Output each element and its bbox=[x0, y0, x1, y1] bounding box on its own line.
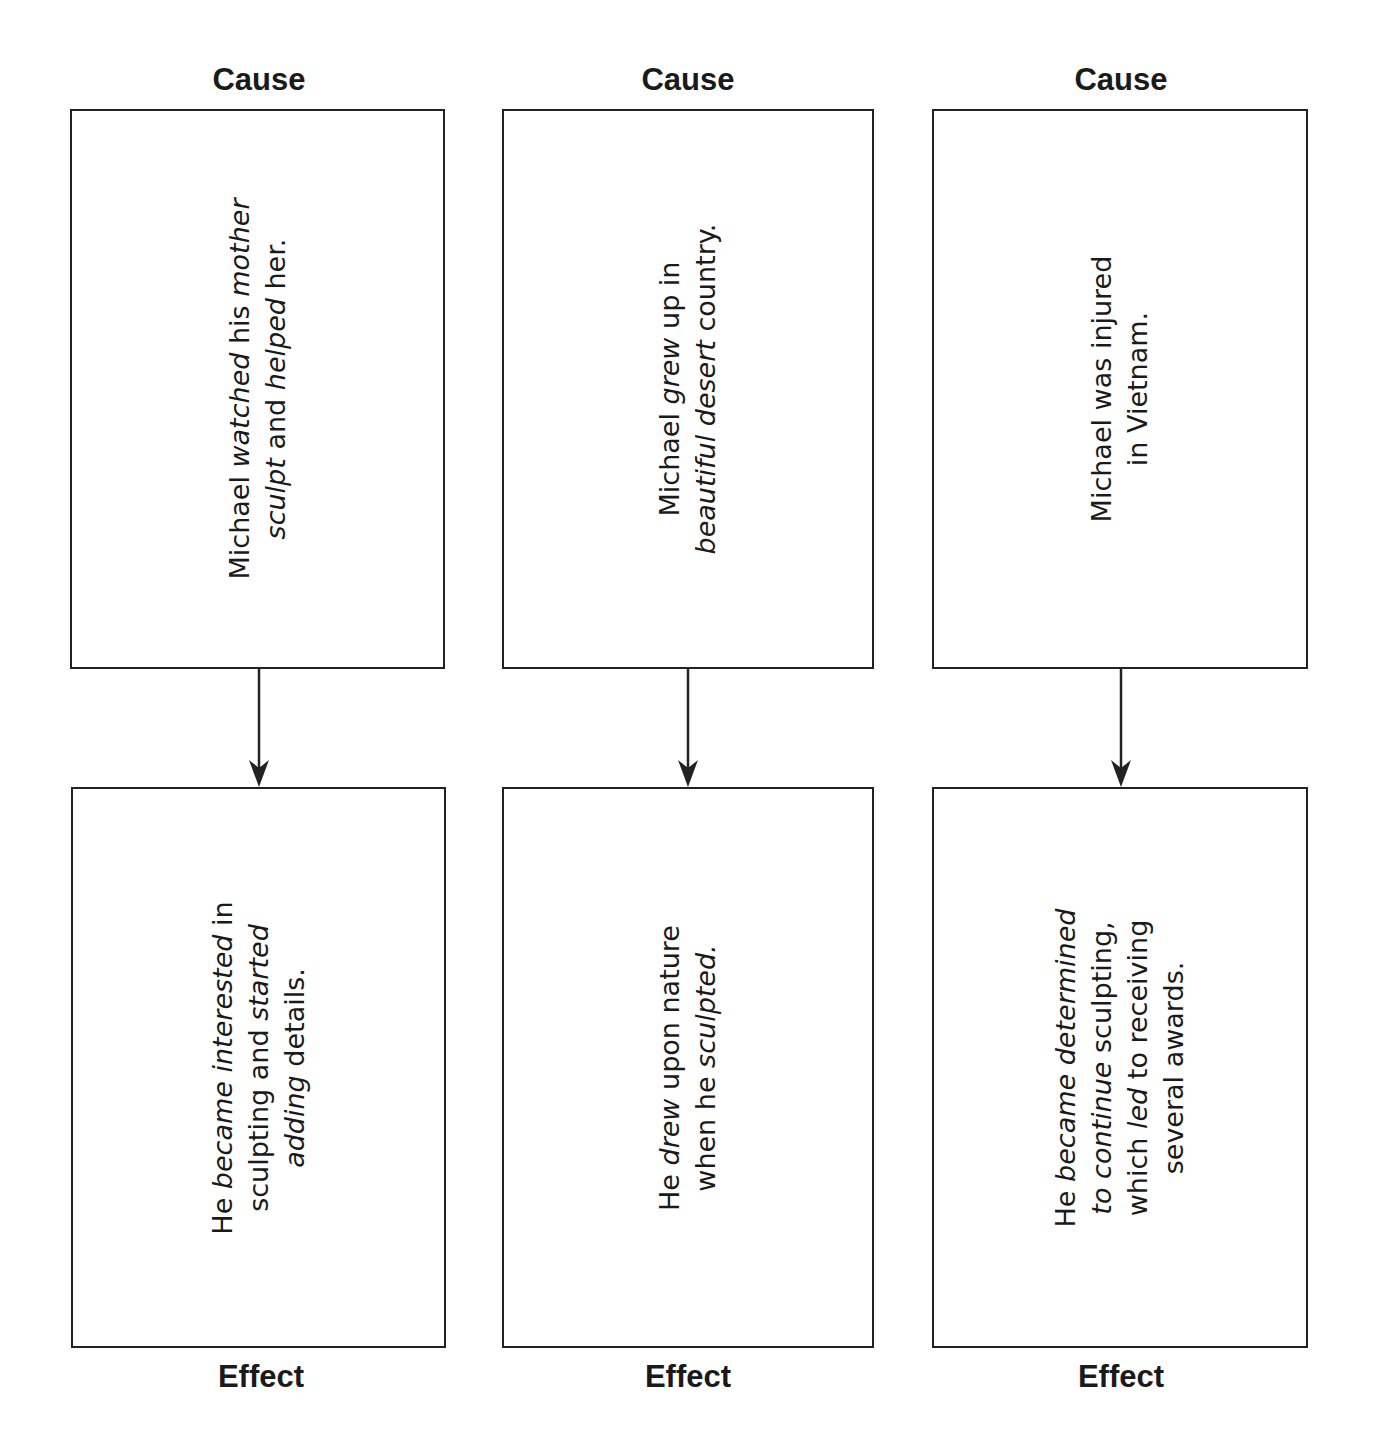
effect-label-3: Effect bbox=[934, 1359, 1308, 1395]
cause-text-3: Michael was injuredin Vietnam. bbox=[1084, 129, 1156, 649]
effect-label-2: Effect bbox=[501, 1359, 875, 1395]
text-line: in Vietnam. bbox=[1120, 129, 1156, 649]
text-line: sculpting and started bbox=[241, 808, 277, 1328]
text-line: Michael grew up in bbox=[652, 129, 688, 649]
effect-text-3: He became determinedto continue sculptin… bbox=[1048, 808, 1192, 1328]
effect-box-1: He became interested insculpting and sta… bbox=[71, 787, 446, 1348]
arrow-down-icon-1 bbox=[239, 668, 279, 788]
text-line: He became determined bbox=[1048, 808, 1084, 1328]
cause-box-1: Michael watched his mothersculpt and hel… bbox=[70, 109, 445, 669]
text-line: adding details. bbox=[277, 808, 313, 1328]
effect-label-1: Effect bbox=[74, 1359, 448, 1395]
effect-box-3: He became determinedto continue sculptin… bbox=[932, 787, 1308, 1348]
text-line: beautiful desert country. bbox=[688, 129, 724, 649]
arrow-down-icon-3 bbox=[1101, 668, 1141, 788]
effect-text-2: He drew upon naturewhen he sculpted. bbox=[652, 808, 724, 1328]
text-line: several awards. bbox=[1156, 808, 1192, 1328]
text-line: when he sculpted. bbox=[688, 808, 724, 1328]
cause-label-3: Cause bbox=[934, 62, 1308, 98]
cause-box-2: Michael grew up inbeautiful desert count… bbox=[502, 109, 874, 669]
cause-text-2: Michael grew up inbeautiful desert count… bbox=[652, 129, 724, 649]
cause-box-3: Michael was injuredin Vietnam. bbox=[932, 109, 1308, 669]
text-line: sculpt and helped her. bbox=[258, 129, 294, 649]
text-line: which led to receiving bbox=[1120, 808, 1156, 1328]
cause-label-2: Cause bbox=[501, 62, 875, 98]
effect-box-2: He drew upon naturewhen he sculpted. bbox=[502, 787, 874, 1348]
text-line: Michael was injured bbox=[1084, 129, 1120, 649]
text-line: He drew upon nature bbox=[652, 808, 688, 1328]
text-line: Michael watched his mother bbox=[222, 129, 258, 649]
effect-text-1: He became interested insculpting and sta… bbox=[205, 808, 313, 1328]
text-line: He became interested in bbox=[205, 808, 241, 1328]
cause-text-1: Michael watched his mothersculpt and hel… bbox=[222, 129, 294, 649]
text-line: to continue sculpting, bbox=[1084, 808, 1120, 1328]
cause-label-1: Cause bbox=[72, 62, 446, 98]
arrow-down-icon-2 bbox=[668, 668, 708, 788]
